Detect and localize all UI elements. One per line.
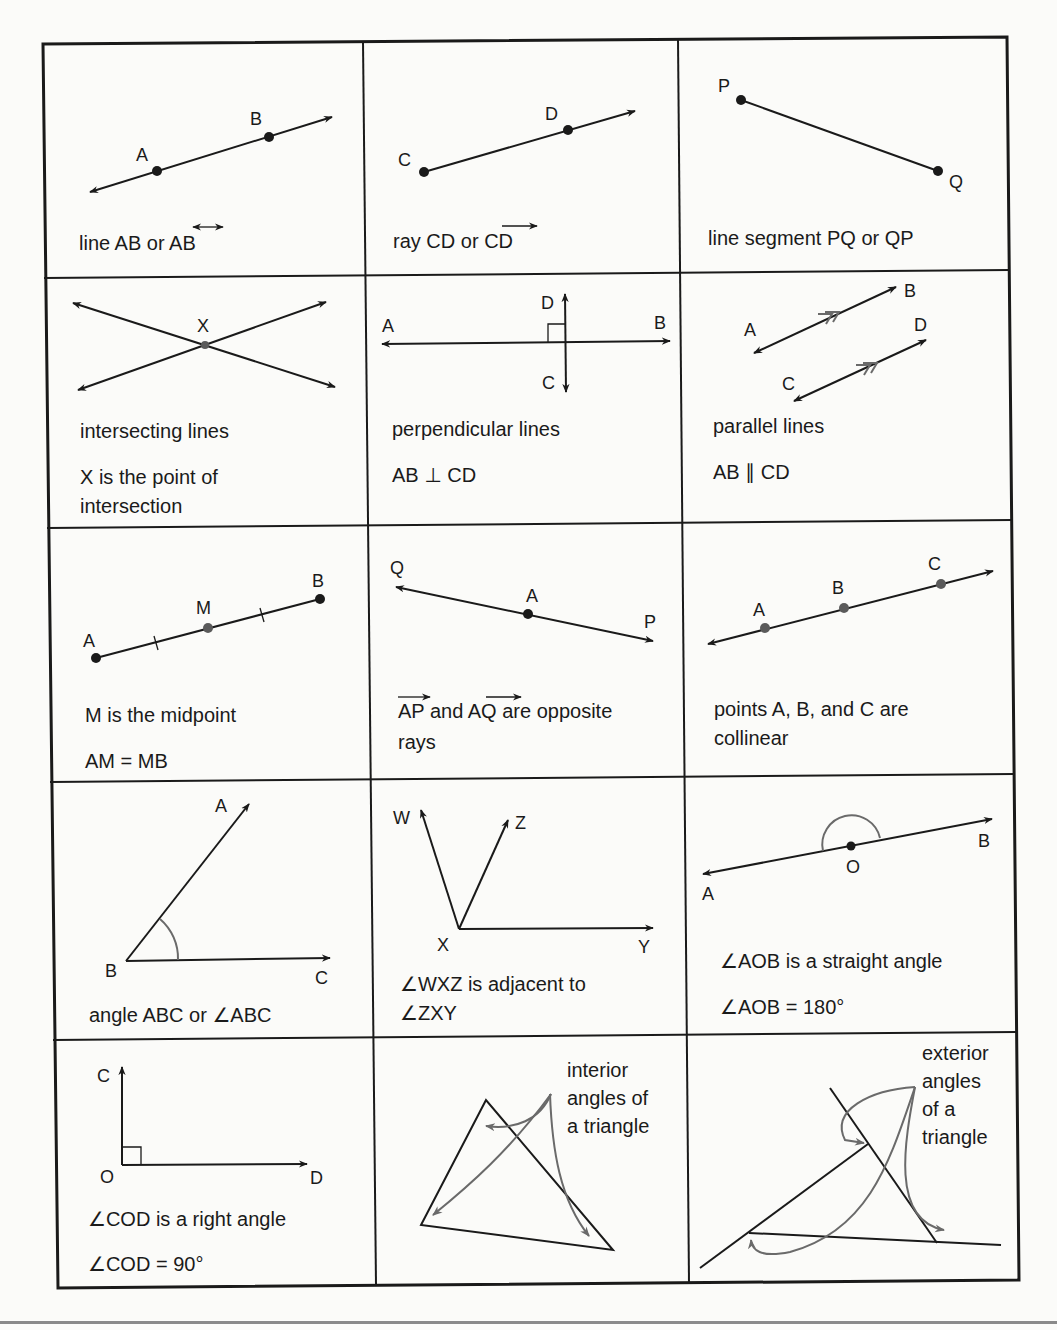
label-a: A	[526, 586, 538, 606]
ray-ba	[126, 804, 249, 961]
point-c	[419, 167, 429, 177]
cell-adjacent-angles: W Z X Y ∠WXZ is adjacent to ∠ZXY	[393, 808, 653, 1024]
cell-parallel-lines: A B C D parallel lines AB ∥ CD	[713, 281, 927, 484]
point-o	[847, 842, 856, 851]
cell-exterior-angles: exterior angles of a triangle	[700, 1042, 1001, 1268]
caption-line-1: ∠WXZ is adjacent to	[400, 973, 586, 995]
label-b: B	[250, 109, 262, 129]
line-abc	[708, 571, 993, 644]
label-a: A	[83, 631, 95, 651]
label-p: P	[718, 76, 730, 96]
label-a: A	[744, 320, 756, 340]
point-b	[839, 603, 849, 613]
caption-formula: ∠AOB = 180°	[720, 996, 844, 1018]
caption-line-3: intersection	[80, 495, 182, 517]
geometry-chart: A B line AB or AB C D ray CD or CD P Q l…	[0, 0, 1057, 1330]
label-q: Q	[949, 172, 963, 192]
caption-line-2: angles of	[567, 1087, 649, 1109]
label-b: B	[904, 281, 916, 301]
label-x: X	[197, 316, 209, 336]
label-b: B	[832, 578, 844, 598]
label-q: Q	[390, 558, 404, 578]
caption-line-1: AP and AQ are opposite	[398, 700, 612, 722]
cell-ray: C D ray CD or CD	[393, 104, 635, 252]
cell-line: A B line AB or AB	[79, 109, 332, 254]
caption-formula: AB ⊥ CD	[392, 464, 476, 486]
table-grid	[43, 37, 1019, 1288]
extended-side-3	[749, 1233, 1001, 1245]
caption-line-2: angles	[922, 1070, 981, 1092]
angle-arc-icon	[160, 919, 178, 960]
line-ab	[90, 117, 332, 192]
caption-line: line AB or AB	[79, 232, 196, 254]
label-c: C	[398, 150, 411, 170]
caption-line-2: rays	[398, 731, 436, 753]
right-angle-icon	[122, 1147, 141, 1165]
caption-line-4: triangle	[922, 1126, 988, 1148]
label-a: A	[382, 316, 394, 336]
label-a: A	[702, 884, 714, 904]
label-p: P	[644, 612, 656, 632]
label-z: Z	[515, 813, 526, 833]
ray-xz	[459, 820, 508, 929]
label-o: O	[846, 857, 860, 877]
label-o: O	[100, 1167, 114, 1187]
caption-line-2: collinear	[714, 727, 789, 749]
cell-interior-angles: interior angles of a triangle	[421, 1059, 649, 1250]
cell-right-angle: C O D ∠COD is a right angle ∠COD = 90°	[88, 1066, 323, 1275]
label-a: A	[753, 600, 765, 620]
caption-title: intersecting lines	[80, 420, 229, 442]
caption-title: M is the midpoint	[85, 704, 237, 726]
point-x	[201, 341, 209, 349]
caption-line-2: X is the point of	[80, 466, 218, 488]
caption-title: ∠COD is a right angle	[88, 1208, 286, 1230]
label-d: D	[541, 293, 554, 313]
caption-line-1: exterior	[922, 1042, 989, 1064]
caption-formula: AM = MB	[85, 750, 168, 772]
caption-ray: ray CD or CD	[393, 230, 513, 252]
line-ab	[754, 287, 896, 353]
label-c: C	[928, 554, 941, 574]
cell-straight-angle: O B A ∠AOB is a straight angle ∠AOB = 18…	[702, 815, 992, 1018]
label-d: D	[545, 104, 558, 124]
label-m: M	[196, 598, 211, 618]
point-p	[736, 95, 746, 105]
label-d: D	[310, 1168, 323, 1188]
arrow-top-exterior-icon	[842, 1087, 915, 1143]
ray-bc	[126, 958, 330, 961]
caption-title: angle ABC or ∠ABC	[89, 1004, 271, 1026]
point-a	[91, 653, 101, 663]
label-a: A	[215, 796, 227, 816]
label-c: C	[782, 374, 795, 394]
label-c: C	[315, 968, 328, 988]
line-ab	[382, 341, 670, 344]
cell-midpoint: A M B M is the midpoint AM = MB	[83, 571, 325, 772]
point-a	[523, 609, 533, 619]
segment-pq	[741, 100, 938, 171]
ray-xw	[421, 810, 459, 929]
caption-segment: line segment PQ or QP	[708, 227, 914, 249]
label-x: X	[437, 935, 449, 955]
ray-xy	[459, 928, 653, 929]
right-angle-icon	[548, 324, 565, 342]
caption-line-2: ∠ZXY	[400, 1002, 457, 1024]
caption-line-1: interior	[567, 1059, 628, 1081]
ray-cd	[424, 111, 635, 172]
caption-line-3: of a	[922, 1098, 956, 1120]
point-a	[152, 166, 162, 176]
point-a	[760, 623, 770, 633]
cell-perpendicular-lines: A B C D perpendicular lines AB ⊥ CD	[382, 293, 670, 486]
label-b: B	[654, 313, 666, 333]
extended-side-1	[700, 1144, 868, 1268]
cell-intersecting-lines: X intersecting lines X is the point of i…	[73, 302, 335, 517]
label-b: B	[978, 831, 990, 851]
point-b	[315, 594, 325, 604]
label-d: D	[914, 315, 927, 335]
cell-line-segment: P Q line segment PQ or QP	[708, 76, 963, 249]
caption-formula: ∠COD = 90°	[88, 1253, 203, 1275]
point-q	[933, 166, 943, 176]
label-y: Y	[638, 937, 650, 957]
point-c	[936, 579, 946, 589]
caption-title: ∠AOB is a straight angle	[720, 950, 942, 972]
caption-title: parallel lines	[713, 415, 824, 437]
